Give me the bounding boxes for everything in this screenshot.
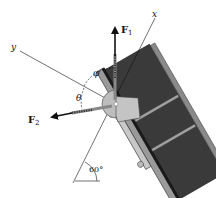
pin-icon bbox=[114, 102, 118, 106]
f2-arrow bbox=[52, 113, 72, 117]
y-axis-label: y bbox=[10, 42, 17, 52]
phi-label: φ bbox=[93, 68, 100, 78]
incline-angle-label: 60° bbox=[89, 165, 103, 174]
force-diagram: x y F1 F2 φ θ 60° bbox=[0, 0, 216, 198]
theta-arc bbox=[81, 88, 84, 109]
theta-label: θ bbox=[76, 93, 82, 103]
x-axis-label: x bbox=[152, 9, 157, 19]
i-beam bbox=[87, 39, 216, 198]
f1-label: F1 bbox=[121, 24, 133, 37]
f2-label: F2 bbox=[28, 114, 40, 127]
